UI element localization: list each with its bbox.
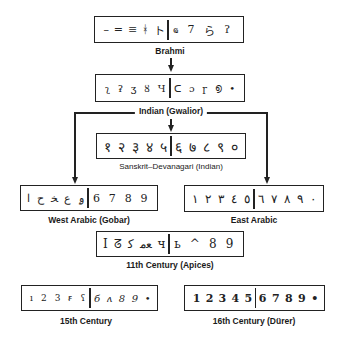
glyph: 2 [206, 292, 214, 305]
glyph: ٢ [205, 192, 211, 206]
glyph: ٨ [284, 192, 290, 206]
glyph: 2 [41, 293, 47, 303]
glyph: ɔ [189, 83, 195, 94]
glyph: ﻛ [128, 237, 134, 251]
glyph: 9 [226, 237, 234, 251]
glyph: ʕ [81, 293, 86, 303]
eleventh-century-label: 11th Century (Apices) [123, 260, 216, 270]
glyph: ȣ [144, 83, 150, 94]
glyph: • [229, 83, 235, 94]
glyph: ᑕ [174, 83, 181, 94]
glyph: ٩ [297, 192, 303, 206]
glyph: ﻌﻣ [140, 237, 152, 251]
west-arabic-digits-1-5: ا ح ﺨ ع ۄ [21, 186, 87, 210]
west-arabic-numeral-box: ا ح ﺨ ع ۄ 6 7 8 9 [20, 185, 158, 211]
glyph: ʌ [107, 293, 113, 304]
indian-gwalior-numeral-box: ʅ ʡ ʒ ȣ Ч ᑕ ɔ ɼ ൭ • [95, 74, 245, 102]
devanagari-digits-1-5: १ २ ३ ४ ५ [97, 134, 170, 158]
glyph: ^ [190, 237, 200, 251]
glyph: I [103, 237, 108, 251]
glyph: 8 [119, 293, 125, 304]
east-arabic-label: East Arabic [228, 215, 280, 225]
glyph: ҩ [173, 23, 178, 36]
glyph: ٧ [271, 192, 277, 206]
glyph: ꞧ [68, 293, 72, 303]
west-arabic-label: West Arabic (Gobar) [45, 215, 133, 225]
apices-digits-1-5: I ᘔ ﻛ ﻌﻣ ч [97, 232, 168, 256]
glyph: б [94, 293, 100, 304]
eleventh-century-numeral-box: I ᘔ ﻛ ﻌﻣ ч ь ^ 8 9 [96, 231, 244, 257]
glyph: ʒ [131, 83, 137, 94]
glyph: ٤ [231, 192, 237, 206]
glyph: ६ [175, 137, 182, 156]
glyph: ٥ [244, 192, 250, 206]
arrowhead-icon [168, 125, 174, 132]
glyph: ʡ [118, 83, 123, 94]
glyph: ९ [217, 137, 224, 156]
glyph: 8 [125, 192, 132, 205]
glyph: ٦ [258, 192, 264, 206]
glyph: 7 [188, 23, 195, 36]
glyph: • [145, 293, 151, 304]
glyph: 4 [232, 292, 240, 305]
glyph: ४ [146, 137, 153, 156]
glyph: ع [64, 192, 71, 205]
brahmi-numeral-box: – = ≡ ᚼ ト ҩ 7 ら ʔ [94, 16, 244, 43]
arrowhead-icon [264, 177, 270, 184]
glyph: 8 [209, 237, 217, 251]
glyph: = [114, 23, 123, 36]
fifteenth-digits-6-0: б ʌ 8 9 • [91, 286, 157, 310]
east-arabic-digits-1-5: ١ ٢ ٣ ٤ ٥ [185, 186, 253, 211]
sanskrit-devanagari-numeral-box: १ २ ३ ४ ५ ६ ७ ८ ९ ० [96, 133, 246, 159]
glyph: • [311, 292, 318, 305]
glyph: 7 [272, 292, 280, 305]
glyph: ١ [192, 192, 198, 206]
glyph: 7 [109, 192, 116, 205]
glyph: ۄ [78, 192, 84, 205]
glyph: 6 [93, 192, 100, 205]
glyph: 8 [285, 292, 293, 305]
glyph: 9 [141, 192, 148, 205]
fifteenth-digits-1-5: ı 2 3 ꞧ ʕ [22, 286, 89, 310]
glyph: ७ [189, 137, 196, 156]
glyph: 9 [132, 293, 138, 304]
glyph: Ч [158, 83, 166, 94]
glyph: 5 [245, 292, 253, 305]
west-arabic-digits-6-9: 6 7 8 9 [89, 186, 157, 210]
branch-line-left [74, 112, 76, 178]
durer-digits-1-5: 1 2 3 4 5 [185, 286, 255, 310]
brahmi-digits-6-9: ҩ 7 ら ʔ [169, 17, 243, 42]
glyph: ı [30, 293, 33, 303]
glyph: 9 [298, 292, 306, 305]
devanagari-digits-6-0: ६ ७ ८ ९ ० [172, 134, 245, 158]
glyph: ʔ [224, 23, 230, 36]
east-arabic-numeral-box: ١ ٢ ٣ ٤ ٥ ٦ ٧ ٨ ٩ ٠ [184, 185, 324, 212]
glyph: ٣ [218, 192, 224, 206]
glyph: १ [104, 137, 111, 156]
glyph: ɼ [202, 83, 207, 94]
glyph: ь [174, 237, 181, 251]
sanskrit-devanagari-label: Sanskrit–Devanagari (Indian) [116, 162, 226, 171]
indian-digits-6-0: ᑕ ɔ ɼ ൭ • [171, 75, 244, 101]
branch-line-right [266, 112, 268, 178]
glyph: ൭ [215, 82, 222, 94]
glyph: ० [231, 137, 238, 156]
brahmi-label: Brahmi [152, 46, 187, 56]
glyph: २ [118, 137, 125, 156]
glyph: ト [154, 22, 165, 38]
durer-digits-6-0: 6 7 8 9 • [256, 286, 324, 310]
glyph: ᚼ [142, 23, 149, 36]
glyph: 3 [55, 293, 61, 303]
glyph: ٠ [310, 192, 316, 206]
glyph: ч [157, 237, 165, 251]
indian-digits-1-5: ʅ ʡ ʒ ȣ Ч [96, 75, 169, 101]
fifteenth-century-label: 15th Century [57, 316, 115, 326]
east-arabic-digits-6-0: ٦ ٧ ٨ ٩ ٠ [255, 186, 323, 211]
glyph: ᘔ [114, 237, 122, 251]
sixteenth-century-label: 16th Century (Dürer) [210, 316, 299, 326]
sixteenth-century-numeral-box: 1 2 3 4 5 6 7 8 9 • [184, 285, 325, 311]
apices-digits-6-9: ь ^ 8 9 [170, 232, 243, 256]
arrowhead-icon [72, 177, 78, 184]
brahmi-digits-1-5: – = ≡ ᚼ ト [95, 17, 167, 42]
glyph: ح [37, 192, 44, 205]
